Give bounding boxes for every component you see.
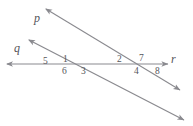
line-label-p: p <box>34 12 40 24</box>
angle-label-3: 3 <box>81 67 86 77</box>
line-q-stroke <box>29 40 184 120</box>
line-label-r: r <box>171 53 176 65</box>
angle-label-2: 2 <box>117 55 122 65</box>
angle-label-4: 4 <box>134 67 139 77</box>
angle-label-7: 7 <box>139 54 144 64</box>
geometry-diagram: p q r 5 1 6 3 2 7 4 8 <box>0 0 193 126</box>
angle-label-8: 8 <box>155 67 160 77</box>
line-p-stroke <box>46 9 180 90</box>
angle-label-6: 6 <box>62 67 67 77</box>
angle-label-5: 5 <box>43 57 48 67</box>
line-label-q: q <box>14 42 20 54</box>
angle-label-1: 1 <box>63 55 68 65</box>
geometry-canvas <box>0 0 193 126</box>
